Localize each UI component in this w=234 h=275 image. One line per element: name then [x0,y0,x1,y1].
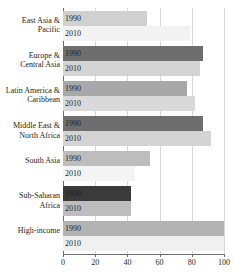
bar-2010 [63,96,195,111]
x-tick-mark-40 [127,254,128,257]
category-label: Sub-Saharan Africa [3,191,63,210]
x-axis-line [63,254,225,255]
bar-1990 [63,46,203,61]
bar-2010 [63,236,224,251]
bar-2010 [63,131,211,146]
bar-group: 19902010 [63,81,224,111]
category-label: South Asia [3,156,63,166]
x-tick-mark-60 [160,254,161,257]
plot-area: 1990201019902010199020101990201019902010… [63,8,224,254]
bar-group: 19902010 [63,186,224,216]
bar-series-label-1990: 1990 [65,48,81,59]
bar-1990 [63,81,187,96]
bar-2010 [63,61,200,76]
bar-series-label-1990: 1990 [65,188,81,199]
bar-series-label-2010: 2010 [65,63,81,74]
bar-1990 [63,116,203,131]
x-tick-mark-80 [192,254,193,257]
x-tick-mark-100 [224,254,225,257]
bar-series-label-1990: 1990 [65,153,81,164]
category-label: Latin America & Caribbean [3,86,63,105]
x-tick-label-20: 20 [91,258,99,268]
bar-series-label-2010: 2010 [65,203,81,214]
bar-series-label-2010: 2010 [65,168,81,179]
bar-series-label-2010: 2010 [65,238,81,249]
bar-2010 [63,26,190,41]
bar-group: 19902010 [63,116,224,146]
bar-series-label-2010: 2010 [65,133,81,144]
bar-chart: East Asia & PacificEurope & Central Asia… [0,0,234,275]
category-label: East Asia & Pacific [3,16,63,35]
bar-series-label-2010: 2010 [65,98,81,109]
x-tick-label-80: 80 [188,258,196,268]
bar-group: 19902010 [63,151,224,181]
x-tick-mark-0 [63,254,64,257]
bar-series-label-1990: 1990 [65,223,81,234]
x-tick-label-40: 40 [123,258,131,268]
bar-series-label-1990: 1990 [65,118,81,129]
bar-group: 19902010 [63,221,224,251]
bar-series-label-1990: 1990 [65,83,81,94]
category-axis-labels: East Asia & PacificEurope & Central Asia… [0,8,63,254]
bar-series-label-2010: 2010 [65,28,81,39]
x-tick-label-0: 0 [61,258,65,268]
x-tick-label-100: 100 [218,258,230,268]
x-tick-mark-20 [95,254,96,257]
category-label: High-income [3,226,63,236]
bar-group: 19902010 [63,46,224,76]
gridline-100 [224,8,225,254]
bar-series-label-1990: 1990 [65,13,81,24]
category-label: Europe & Central Asia [3,51,63,70]
x-tick-label-60: 60 [156,258,164,268]
bar-1990 [63,221,224,236]
bar-group: 19902010 [63,11,224,41]
category-label: Middle East & North Africa [3,121,63,140]
